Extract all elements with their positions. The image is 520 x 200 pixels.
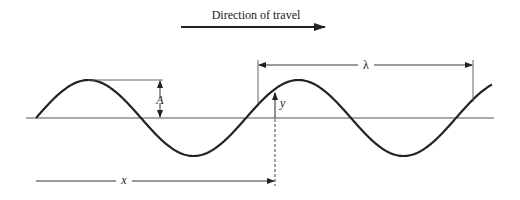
wave-diagram: Direction of travel A λ y x — [0, 0, 520, 200]
wavelength-label: λ — [363, 58, 369, 72]
position-label: x — [120, 173, 127, 187]
displacement-label: y — [279, 96, 286, 110]
direction-label: Direction of travel — [212, 8, 301, 22]
amplitude-label: A — [155, 93, 164, 107]
